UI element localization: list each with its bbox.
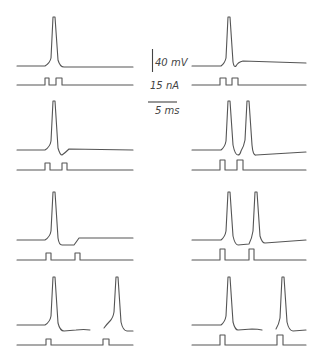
voltage-trace <box>192 17 306 67</box>
stimulus-trace <box>17 339 133 345</box>
stimulus-trace <box>192 160 306 170</box>
panel-right-4 <box>192 277 306 345</box>
panel-right-1 <box>192 17 306 85</box>
figure-canvas: 40 mV 15 nA 5 ms <box>0 0 326 363</box>
stimulus-trace <box>192 78 306 85</box>
panel-left-3 <box>17 192 133 260</box>
stimulus-trace <box>17 163 133 170</box>
stimulus-trace <box>192 249 306 260</box>
panel-right-2 <box>192 101 306 170</box>
panel-right-3 <box>192 192 306 260</box>
voltage-trace <box>192 101 306 155</box>
voltage-trace <box>192 192 306 245</box>
voltage-trace <box>192 277 262 330</box>
current-scale-label: 15 nA <box>150 80 179 91</box>
voltage-trace <box>17 192 133 245</box>
time-scale-label: 5 ms <box>155 105 180 116</box>
panel-left-4 <box>17 277 133 345</box>
voltage-trace-second <box>276 277 306 331</box>
stimulus-trace <box>17 78 133 85</box>
voltage-scale-label: 40 mV <box>155 57 189 68</box>
voltage-trace <box>17 101 133 155</box>
scale-bars: 40 mV 15 nA 5 ms <box>148 49 189 116</box>
voltage-trace <box>17 277 90 331</box>
voltage-trace <box>17 17 133 67</box>
stimulus-trace <box>17 253 133 260</box>
stimulus-trace <box>192 335 306 345</box>
panel-left-1 <box>17 17 133 85</box>
panel-left-2 <box>17 101 133 170</box>
voltage-trace-second <box>104 277 133 331</box>
